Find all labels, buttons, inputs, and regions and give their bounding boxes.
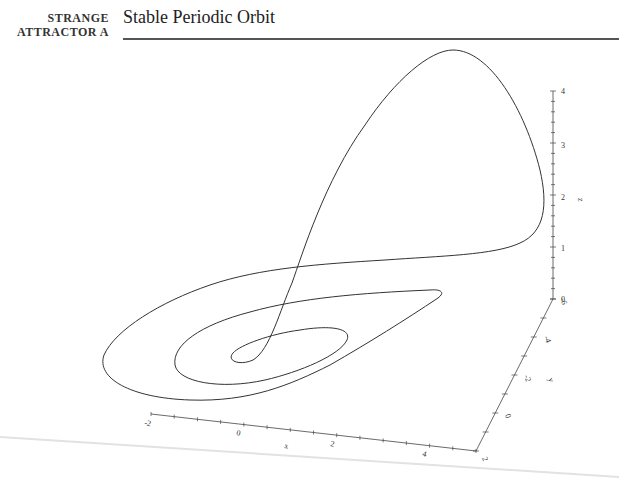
y-axis: 2 0 -2 -4 -6 y	[473, 297, 569, 463]
x-tick-0: 0	[236, 428, 242, 438]
x-tick-4: 4	[422, 449, 428, 459]
y-tick-2: 2	[480, 456, 490, 463]
y-tick-neg4: -4	[542, 335, 553, 344]
y-tick-neg2: -2	[522, 374, 533, 383]
z-tick-2: 2	[561, 193, 565, 202]
z-axis: 4 3 2 1 0 z	[550, 87, 585, 304]
x-tick-2: 2	[330, 439, 336, 449]
z-axis-title: z	[576, 198, 585, 202]
z-tick-1: 1	[561, 244, 565, 253]
periodic-orbit-curve	[103, 50, 544, 400]
z-tick-3: 3	[561, 141, 565, 150]
z-tick-4: 4	[561, 87, 565, 96]
x-axis: -2 0 2 4 x	[144, 412, 476, 459]
page-edge	[0, 437, 619, 477]
y-axis-title: y	[546, 377, 556, 384]
y-tick-neg6: -6	[558, 297, 569, 306]
x-tick-neg2: -2	[144, 418, 152, 428]
orbit-plot: 4 3 2 1 0 z 2 0 -2 -4 -6 y -2 0 2 4 x	[0, 0, 619, 478]
y-tick-0: 0	[503, 413, 513, 420]
x-axis-title: x	[284, 441, 290, 451]
